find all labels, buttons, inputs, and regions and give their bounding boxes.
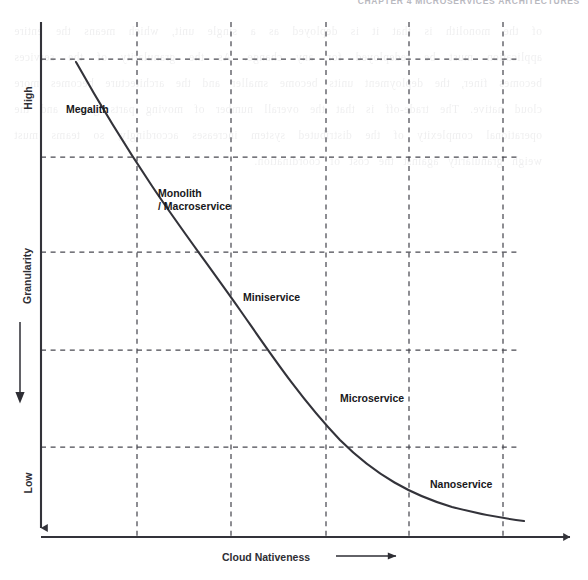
chart-svg xyxy=(0,0,588,580)
annotation-miniservice: Miniservice xyxy=(243,291,300,304)
horizontal-gridlines xyxy=(41,59,520,447)
annotation-megalith: Megalith xyxy=(66,103,109,116)
y-axis-tick-low: Low xyxy=(22,453,34,513)
y-axis-title: Granularity xyxy=(21,226,33,326)
y-axis-tick-high: High xyxy=(22,68,34,128)
vertical-gridlines xyxy=(137,22,503,537)
annotation-nanoservice: Nanoservice xyxy=(430,478,492,491)
x-axis-title: Cloud Nativeness xyxy=(222,551,310,563)
annotation-monolith-macroservice: Monolith / Macroservice xyxy=(158,187,231,213)
annotation-microservice: Microservice xyxy=(340,392,404,405)
annotation-monolith-line2: / Macroservice xyxy=(158,200,231,213)
granularity-direction-arrow xyxy=(15,322,24,404)
annotation-monolith-line1: Monolith xyxy=(158,187,231,200)
granularity-vs-cloud-nativeness-chart: High Granularity Low Cloud Nativeness Me… xyxy=(0,0,588,580)
